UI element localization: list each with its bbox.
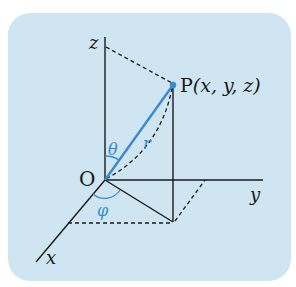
point-p-name: P bbox=[180, 74, 193, 96]
phi-label: φ bbox=[97, 201, 109, 220]
point-p-coords: (x, y, z) bbox=[193, 74, 261, 96]
radius-vector-r bbox=[105, 85, 173, 180]
phi-arc bbox=[93, 190, 120, 198]
spherical-coordinates-figure: z y x O P(x, y, z) θ r φ bbox=[0, 0, 296, 287]
projection-line-o-foot bbox=[105, 180, 173, 222]
dashed-z-to-p bbox=[106, 47, 172, 83]
theta-label: θ bbox=[108, 140, 118, 159]
point-p-marker bbox=[170, 82, 176, 88]
point-p-label: P(x, y, z) bbox=[180, 74, 261, 96]
dashed-foot-to-y bbox=[175, 180, 205, 221]
radius-label: r bbox=[143, 134, 152, 153]
y-axis-label: y bbox=[249, 184, 261, 205]
z-axis-label: z bbox=[88, 32, 99, 53]
x-axis-label: x bbox=[46, 247, 56, 268]
origin-label: O bbox=[79, 167, 95, 191]
